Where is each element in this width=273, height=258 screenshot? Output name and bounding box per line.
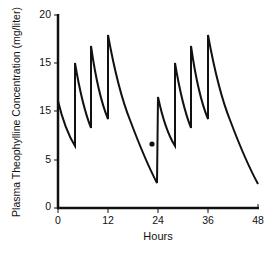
theophylline-chart: Plasma Theophylline Concentration (mg/li… (0, 0, 273, 258)
concentration-line (58, 35, 258, 184)
plot-area (0, 0, 273, 258)
data-point-marker (149, 141, 154, 146)
